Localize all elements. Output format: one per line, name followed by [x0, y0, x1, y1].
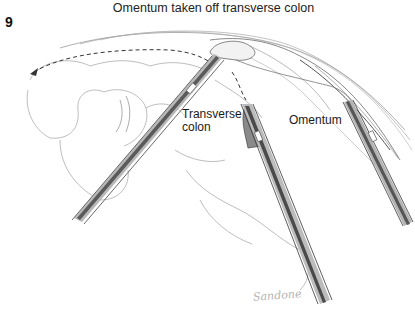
grasper-instrument-left: [72, 54, 224, 224]
label-transverse-colon: Transverse colon: [182, 108, 242, 134]
grasper-instrument-right: [343, 100, 413, 226]
surgical-illustration: [0, 0, 415, 321]
label-omentum: Omentum: [289, 114, 342, 127]
arrow-head: [30, 68, 38, 76]
dissector-instrument-center: [241, 104, 332, 304]
transverse-colon: [27, 61, 308, 290]
label-transverse-colon-line2: colon: [182, 121, 242, 134]
